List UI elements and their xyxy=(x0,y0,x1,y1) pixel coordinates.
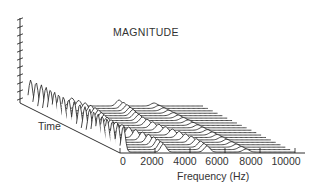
time-axis-label: Time xyxy=(38,120,61,132)
x-tick-label: 6000 xyxy=(205,155,228,167)
spectral-traces xyxy=(28,80,295,153)
x-tick-label: 8000 xyxy=(239,155,262,167)
magnitude-axis-label: MAGNITUDE xyxy=(113,26,179,38)
frequency-axis-label: Frequency (Hz) xyxy=(177,170,249,182)
x-tick-label: 4000 xyxy=(173,155,196,167)
x-tick-label: 0 xyxy=(120,155,126,167)
x-tick-label: 10000 xyxy=(271,155,300,167)
x-tick-label: 2000 xyxy=(140,155,163,167)
